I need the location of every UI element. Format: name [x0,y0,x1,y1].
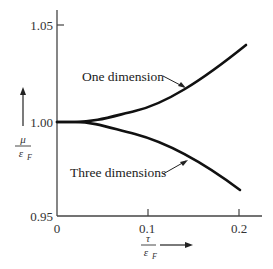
x-label-denominator: ε [144,246,149,258]
y-tick-label-100: 1.00 [30,115,53,130]
x-tick-label-02: 0.2 [231,221,247,236]
arrow-three-dimensions [163,160,188,174]
y-arrow-head-icon [20,87,26,95]
x-arrow-head-icon [185,242,193,248]
y-label-denominator: ε [19,147,24,159]
arrow-one-dimension [163,76,186,88]
label-one-dimension: One dimension [82,69,164,84]
y-label-denominator-sub: F [26,153,32,162]
y-tick-label-095: 0.95 [30,209,53,224]
x-axis-label: τ ε F [141,232,193,261]
y-tick-label-105: 1.05 [30,18,53,33]
x-tick-label-0: 0 [54,221,61,236]
x-label-denominator-sub: F [151,252,157,261]
y-label-numerator: μ [19,133,26,145]
label-three-dimensions: Three dimensions [70,165,166,180]
chart: 1.05 1.00 0.95 0 0.1 0.2 One dimension T… [0,0,273,269]
